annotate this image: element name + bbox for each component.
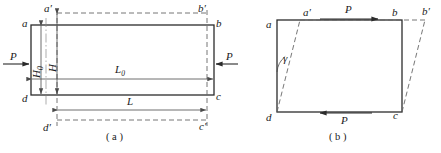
dimension-label-h0: H0 <box>31 66 45 78</box>
label-a-a: a <box>22 18 28 29</box>
dimension-label-l0: L0 <box>115 64 125 78</box>
dimension-label-h: H <box>47 64 61 72</box>
caption-b: ( b ) <box>329 131 347 142</box>
label-a-b: a <box>266 19 272 30</box>
label-c-prime-a: c′ <box>199 121 206 132</box>
caption-a: ( a ) <box>106 131 123 142</box>
label-d-a: d <box>22 93 28 104</box>
label-b-prime-a: b′ <box>198 3 206 14</box>
label-d-prime-a: d′ <box>43 122 51 133</box>
label-a-prime-a: a′ <box>44 3 52 14</box>
force-label-p-left: P <box>10 51 17 62</box>
dimension-label-l: L <box>127 96 133 110</box>
undeformed-rectangle-b <box>277 20 402 112</box>
label-c-a: c <box>216 91 221 102</box>
label-b-b: b <box>392 7 398 18</box>
figure-container: a′ b′ a b d c d′ c′ H0 H L0 L P P ( a ) … <box>0 0 441 153</box>
sheared-parallelogram-b <box>277 20 425 112</box>
label-d-b: d <box>266 112 272 123</box>
diagram-b-group <box>277 19 425 113</box>
label-b-a: b <box>216 18 222 29</box>
label-b-prime-b: b′ <box>422 6 430 17</box>
label-shear-angle-gamma: γ <box>283 53 287 64</box>
label-a-prime-b: a′ <box>303 7 311 18</box>
force-label-p-right: P <box>226 51 233 62</box>
force-label-p-top: P <box>345 4 352 15</box>
force-label-p-bottom: P <box>341 115 348 126</box>
label-c-b: c <box>393 110 398 121</box>
undeformed-rectangle-a <box>31 25 214 95</box>
